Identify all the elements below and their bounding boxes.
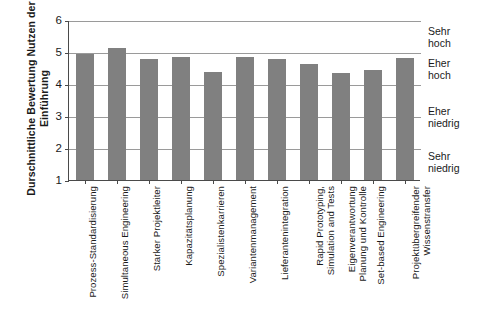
x-axis-tick	[405, 180, 406, 184]
bar[interactable]	[204, 72, 222, 180]
x-axis-tick	[213, 180, 214, 184]
y-axis-tick-label: 3	[42, 111, 62, 123]
bar[interactable]	[332, 73, 350, 180]
x-axis-tick	[341, 180, 342, 184]
x-axis-tick	[117, 180, 118, 184]
bar-slot	[261, 20, 293, 180]
right-scale-label: Sehr hoch	[428, 26, 490, 50]
x-axis-category-label: Simultaneous Engineering	[120, 186, 131, 332]
bar[interactable]	[108, 48, 126, 180]
right-scale-label: Eher niedrig	[428, 106, 490, 130]
bar-slot	[197, 20, 229, 180]
y-axis-tick-label: 1	[42, 175, 62, 187]
right-scale-label: Sehr niedrig	[428, 151, 490, 175]
x-axis-category-label: Kapazitätsplanung	[184, 186, 195, 332]
bar-slot	[165, 20, 197, 180]
bar-slot	[293, 20, 325, 180]
x-axis-tick	[149, 180, 150, 184]
x-axis-labels: Prozess-StandardisierungSimultaneous Eng…	[68, 186, 420, 334]
bar-slot	[325, 20, 357, 180]
bar[interactable]	[140, 59, 158, 180]
bar[interactable]	[236, 57, 254, 180]
right-scale-labels: Sehr hochEher hochEher niedrigSehr niedr…	[428, 0, 492, 200]
y-axis-title: Durschnittliche Bewertung Nutzen der Ein…	[25, 0, 50, 199]
bar-slot	[389, 20, 421, 180]
x-axis-category-label: Rapid Prototyping, Simulation and Tests	[315, 186, 336, 332]
bar[interactable]	[364, 70, 382, 180]
x-axis-category-label: Eigenverantwortung Planung und Kontrolle	[347, 186, 368, 332]
y-axis-tick-label: 6	[42, 15, 62, 27]
bar[interactable]	[172, 57, 190, 180]
right-scale-label: Eher hoch	[428, 58, 490, 82]
bar-slot	[133, 20, 165, 180]
y-axis-tick-label: 4	[42, 79, 62, 91]
x-axis-tick	[181, 180, 182, 184]
x-axis-category-label: Prozess-Standardisierung	[88, 186, 99, 332]
plot-area: 123456	[68, 21, 420, 181]
y-axis-tick	[65, 181, 69, 182]
x-axis-category-label: Projektübergreifender Wissenstransfer	[411, 186, 432, 332]
bar[interactable]	[76, 54, 94, 180]
bar-series	[69, 20, 421, 180]
x-axis-tick	[245, 180, 246, 184]
bar-slot	[101, 20, 133, 180]
bar[interactable]	[300, 64, 318, 180]
bar-slot	[357, 20, 389, 180]
x-axis-category-label: Set-based Engineering	[376, 186, 387, 332]
x-axis-category-label: Spezialistenkarrieren	[216, 186, 227, 332]
x-axis-tick	[277, 180, 278, 184]
y-axis-tick-label: 5	[42, 47, 62, 59]
x-axis-category-label: Variantenmanagement	[248, 186, 259, 332]
bar[interactable]	[268, 59, 286, 180]
x-axis-tick	[309, 180, 310, 184]
x-axis-tick	[373, 180, 374, 184]
x-axis-category-label: Lieferantenintegration	[280, 186, 291, 332]
bar-slot	[229, 20, 261, 180]
y-axis-tick-label: 2	[42, 143, 62, 155]
bar-slot	[69, 20, 101, 180]
bar[interactable]	[396, 58, 414, 180]
x-axis-category-label: Starker Projektleiter	[152, 186, 163, 332]
x-axis-tick	[85, 180, 86, 184]
bar-chart: Durschnittliche Bewertung Nutzen der Ein…	[0, 0, 492, 334]
